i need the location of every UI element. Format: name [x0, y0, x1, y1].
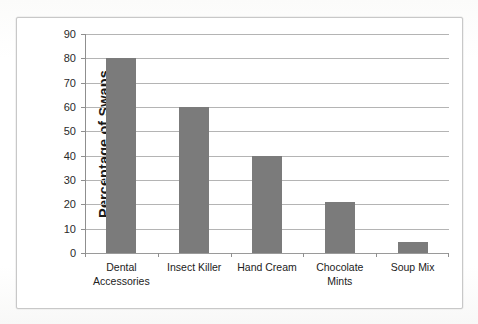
bar: [106, 58, 136, 253]
x-tick-label-line: Soup Mix: [376, 261, 449, 275]
y-tick-label: 60: [64, 101, 76, 113]
x-tick-label-line: Mints: [303, 275, 376, 289]
bar: [325, 202, 355, 253]
x-tick-mark: [231, 253, 232, 257]
bar: [252, 156, 282, 253]
x-tick-label: Insect Killer: [158, 261, 231, 275]
y-tick-label: 30: [64, 174, 76, 186]
x-tick-label: DentalAccessories: [85, 261, 158, 288]
y-tick-label: 40: [64, 150, 76, 162]
bar: [179, 107, 209, 253]
y-tick-mark: [81, 58, 85, 59]
y-tick-mark: [81, 83, 85, 84]
x-tick-label-line: Chocolate: [303, 261, 376, 275]
bar-series: [85, 34, 449, 253]
x-tick-label-line: Accessories: [85, 275, 158, 289]
chart-frame: Percentage of Swaps 0102030405060708090 …: [16, 17, 463, 309]
x-tick-mark: [303, 253, 304, 257]
x-tick-label: Hand Cream: [231, 261, 304, 275]
x-tick-label-line: Hand Cream: [231, 261, 304, 275]
bar: [398, 242, 428, 253]
x-tick-label-line: Insect Killer: [158, 261, 231, 275]
y-tick-label: 90: [64, 28, 76, 40]
y-tick-mark: [81, 204, 85, 205]
y-tick-label: 0: [70, 247, 76, 259]
x-tick-label-line: Dental: [85, 261, 158, 275]
y-tick-mark: [81, 34, 85, 35]
x-tick-mark: [376, 253, 377, 257]
y-tick-mark: [81, 180, 85, 181]
x-tick-mark: [85, 253, 86, 257]
y-tick-mark: [81, 107, 85, 108]
x-tick-mark: [448, 253, 449, 257]
x-tick-mark: [158, 253, 159, 257]
x-tick-label: Soup Mix: [376, 261, 449, 275]
y-tick-label: 80: [64, 52, 76, 64]
x-axis-tick-labels: DentalAccessoriesInsect KillerHand Cream…: [85, 261, 449, 301]
y-tick-label: 50: [64, 125, 76, 137]
y-tick-label: 70: [64, 77, 76, 89]
chart-screenshot: Percentage of Swaps 0102030405060708090 …: [0, 0, 478, 324]
y-tick-mark: [81, 229, 85, 230]
y-tick-mark: [81, 131, 85, 132]
y-tick-label: 20: [64, 198, 76, 210]
y-tick-mark: [81, 156, 85, 157]
plot-area: 0102030405060708090: [85, 34, 449, 253]
x-tick-label: ChocolateMints: [303, 261, 376, 288]
y-tick-label: 10: [64, 223, 76, 235]
gridline: [85, 253, 449, 254]
